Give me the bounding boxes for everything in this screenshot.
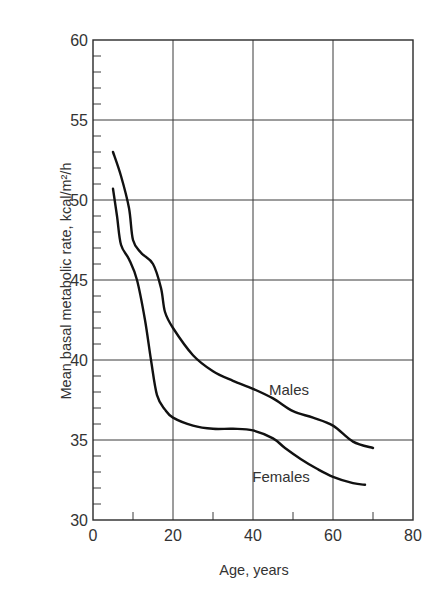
x-tick-label: 0 [89,527,98,544]
x-axis-title: Age, years [219,562,288,578]
y-tick-label: 30 [70,512,88,529]
axis-ticks [93,56,373,520]
series-label-males: Males [269,381,309,398]
x-tick-label: 40 [244,527,262,544]
y-tick-label: 35 [70,432,88,449]
y-axis-title: Mean basal metabolic rate, kcal/m²/h [58,163,74,400]
x-tick-label: 60 [324,527,342,544]
grid-lines [93,40,413,520]
data-series [113,152,373,485]
tick-labels: 30354045505560020406080 [70,32,422,544]
y-tick-label: 60 [70,32,88,49]
x-tick-label: 80 [404,527,422,544]
series-line-males [113,152,373,448]
y-tick-label: 55 [70,112,88,129]
x-tick-label: 20 [164,527,182,544]
series-label-females: Females [252,468,310,485]
